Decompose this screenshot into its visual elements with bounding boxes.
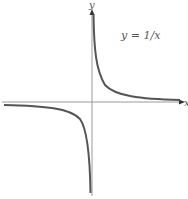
x-axis-label: x	[184, 97, 188, 108]
hyperbola-graph: y x y = 1/x	[0, 0, 188, 199]
curve-positive-branch	[94, 14, 181, 100]
equation-label: y = 1/x	[120, 29, 161, 42]
y-axis-label: y	[88, 0, 95, 10]
curve-negative-branch	[4, 105, 91, 193]
